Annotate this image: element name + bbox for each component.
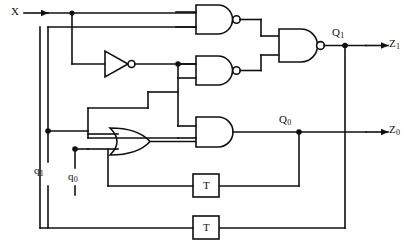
output-label-z1: Z1 <box>389 38 400 49</box>
gate-nand2 <box>178 55 279 85</box>
flipflop-label-ff0: T <box>203 180 210 191</box>
flipflop-label-ff1: T <box>203 222 210 233</box>
circuit-canvas <box>0 0 411 249</box>
output-label-z0: Z0 <box>389 124 400 135</box>
wire-q1-q0-to-or <box>48 131 88 149</box>
node-label-q0: q0 <box>68 171 78 182</box>
gate-not1 <box>105 51 178 77</box>
node-label-q1: q1 <box>34 165 44 176</box>
input-label-x: X <box>11 6 19 17</box>
gate-or1 <box>88 128 196 155</box>
node-label-Q1: Q1 <box>332 27 344 38</box>
wire-not-to-nand2-top <box>178 64 196 126</box>
node-label-Q0: Q0 <box>279 114 291 125</box>
wire-q1-to-nand1 <box>48 27 196 131</box>
wire-x-to-not <box>72 13 105 64</box>
gate-nand1 <box>176 5 279 36</box>
circuit-diagram: X Z1 Z0 Q1 Q0 q1 q0 T T <box>0 0 411 249</box>
gate-nand3 <box>279 29 366 62</box>
gate-and1 <box>178 117 366 147</box>
